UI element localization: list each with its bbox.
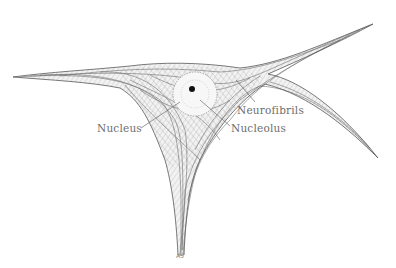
neuron-illustration: Neurofibrils Nucleolus Nucleus AS	[0, 0, 396, 268]
nucleolus-label: Nucleolus	[231, 122, 286, 134]
cell-body	[13, 24, 378, 255]
artist-signature: AS	[176, 252, 184, 259]
neuron-drawing	[0, 0, 396, 268]
nucleolus-dot	[189, 86, 195, 92]
nucleus-label: Nucleus	[97, 122, 142, 134]
neurofibrils-label: Neurofibrils	[237, 104, 304, 116]
